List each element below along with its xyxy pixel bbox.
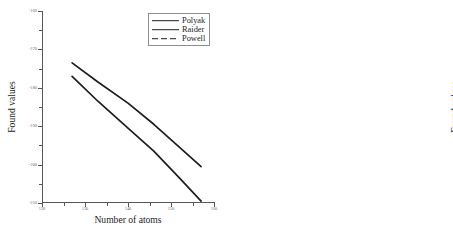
solid-line-key: [152, 16, 179, 25]
y-tick-label: -170: [29, 47, 37, 51]
x-tick-label: 160: [211, 207, 217, 211]
legend-item-polyak: Polyak: [152, 16, 205, 25]
legend-label-polyak: Polyak: [182, 16, 205, 25]
series-line-raider: [72, 76, 201, 201]
y-tick-label: -200: [29, 162, 37, 166]
y-tick-label: -180: [29, 86, 37, 90]
y-axis-title-right: Found values: [449, 81, 453, 132]
legend-item-powell: Powell: [152, 34, 205, 43]
x-tick-minor: [64, 203, 65, 206]
legend-label-raider: Raider: [182, 25, 204, 34]
dashed-line-key: [152, 34, 179, 43]
x-tick-minor: [193, 203, 194, 206]
x-tick-minor: [150, 203, 151, 206]
figure-container: -160-170-180-190-200-210 120130140150160…: [0, 0, 453, 236]
y-axis-title-left: Found values: [6, 81, 17, 132]
x-tick-label: 120: [39, 207, 45, 211]
legend-label-powell: Powell: [182, 34, 205, 43]
chart-panel-left: -160-170-180-190-200-210 120130140150160…: [0, 0, 226, 236]
chart-panel-right: 0-50-100-150-200-250 04080120160 Found v…: [227, 0, 453, 236]
legend-box: Polyak Raider Powell: [148, 13, 210, 46]
solid-line-key: [152, 25, 179, 34]
y-tick-label: -210: [29, 201, 37, 205]
x-tick-label: 130: [82, 207, 88, 211]
x-tick-label: 150: [168, 207, 174, 211]
x-axis-title-left: Number of atoms: [42, 214, 214, 225]
x-tick-label: 140: [125, 207, 131, 211]
legend-item-raider: Raider: [152, 25, 205, 34]
y-tick-label: -160: [29, 9, 37, 13]
series-line-polyak: [72, 63, 201, 167]
x-tick-minor: [107, 203, 108, 206]
y-tick-label: -190: [29, 124, 37, 128]
